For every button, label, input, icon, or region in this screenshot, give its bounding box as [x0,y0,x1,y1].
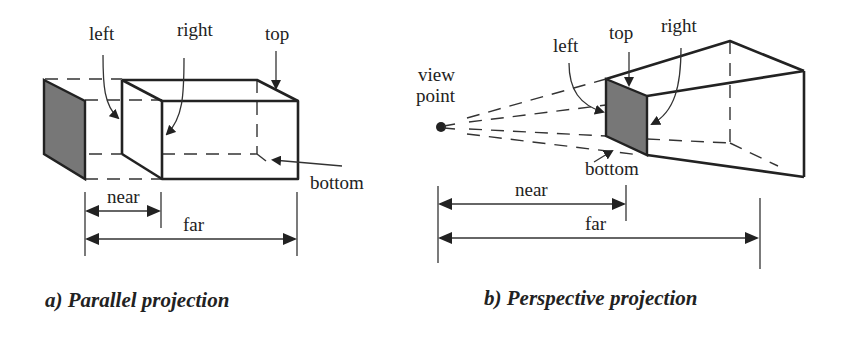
far-label: far [183,214,205,235]
top-label: top [609,22,633,43]
view-point-dot [436,122,446,132]
perspective-projection-diagram: view point left top right bottom near fa… [416,15,804,310]
top-label: top [265,23,289,44]
parallel-caption: a) Parallel projection [45,288,229,312]
bottom-callout-arrow [273,160,342,166]
left-label: left [553,35,579,56]
right-label: right [177,19,214,40]
near-label: near [515,179,548,200]
bottom-label: bottom [310,172,364,193]
parallel-projection-diagram: left right top bottom near far a) Parall… [44,19,364,312]
parallel-projection-plane [44,80,85,179]
perspective-caption: b) Perspective projection [484,286,697,310]
right-callout-arrow [167,58,184,134]
bottom-label: bottom [585,158,639,179]
right-label: right [661,15,698,36]
view-point-label-line1: view [418,64,455,85]
near-label: near [107,186,140,207]
view-point-label-line2: point [416,85,456,106]
far-label: far [585,213,607,234]
perspective-projection-plane [606,79,647,155]
parallel-view-volume-box [122,80,298,179]
left-label: left [89,23,115,44]
left-callout-arrow [103,55,118,118]
